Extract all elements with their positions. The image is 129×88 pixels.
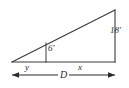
dimension-arrow-left: [12, 72, 19, 78]
dimension-arrow-right: [108, 72, 115, 78]
label-segment-y: y: [25, 63, 29, 72]
geometry-diagram: 6' 18' y x D: [0, 0, 129, 88]
label-inner-height: 6': [48, 44, 54, 53]
label-segment-x: x: [78, 63, 82, 72]
hypotenuse-line: [12, 10, 115, 62]
triangle-outline: [12, 10, 115, 62]
label-outer-height: 18': [110, 26, 121, 35]
label-total-distance: D: [58, 70, 69, 80]
